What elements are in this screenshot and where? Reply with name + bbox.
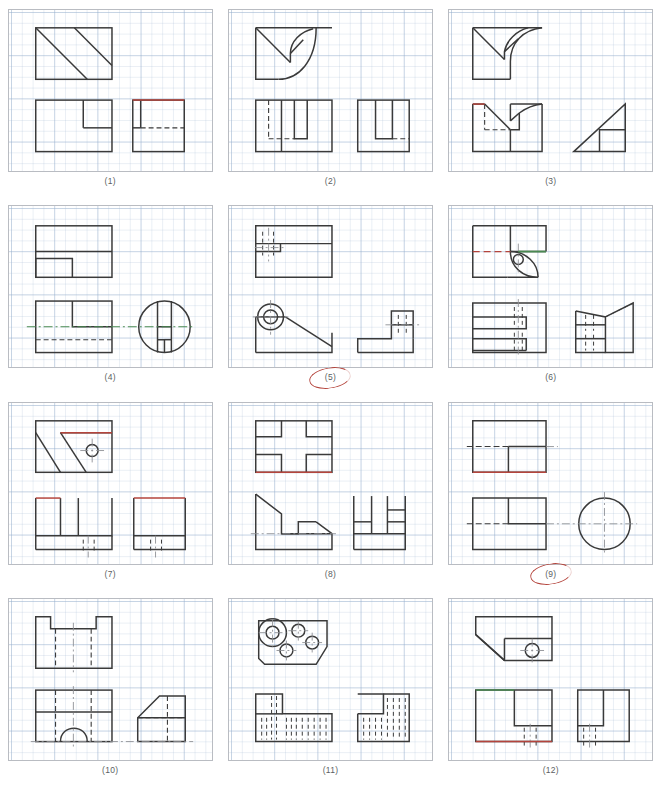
drawing-panel bbox=[228, 9, 433, 172]
panel-caption: (3) bbox=[545, 176, 556, 187]
panel-caption: (1) bbox=[105, 176, 116, 187]
drawing-panel bbox=[448, 598, 653, 761]
exercise-panel-12: (12) bbox=[441, 589, 661, 785]
exercise-panel-10: (10) bbox=[0, 589, 220, 785]
drawing-panel bbox=[228, 205, 433, 368]
panel-caption: (10) bbox=[102, 765, 118, 776]
panel-caption: (8) bbox=[325, 569, 336, 580]
orthographic-drawing bbox=[229, 599, 432, 760]
panel-number: (8) bbox=[325, 569, 336, 579]
drawing-panel bbox=[448, 402, 653, 565]
panel-caption: (12) bbox=[543, 765, 559, 776]
exercise-panel-5: (5) bbox=[220, 196, 440, 392]
exercise-panel-8: (8) bbox=[220, 393, 440, 589]
orthographic-drawing bbox=[449, 10, 652, 171]
drawing-panel bbox=[448, 9, 653, 172]
panel-caption: (4) bbox=[105, 372, 116, 383]
panel-number: (2) bbox=[325, 176, 336, 186]
orthographic-drawing bbox=[449, 206, 652, 367]
orthographic-drawing bbox=[229, 10, 432, 171]
panel-caption: (11) bbox=[323, 765, 339, 776]
exercise-panel-4: (4) bbox=[0, 196, 220, 392]
panel-caption: (7) bbox=[105, 569, 116, 580]
exercise-sheet: (1) bbox=[0, 0, 661, 785]
panel-number: (4) bbox=[105, 372, 116, 382]
panel-caption: (6) bbox=[545, 372, 556, 383]
orthographic-drawing bbox=[9, 10, 212, 171]
exercise-panel-7: (7) bbox=[0, 393, 220, 589]
drawing-panel bbox=[448, 205, 653, 368]
exercise-panel-11: (11) bbox=[220, 589, 440, 785]
panel-caption: (2) bbox=[325, 176, 336, 187]
panel-caption: (5) bbox=[325, 372, 336, 383]
orthographic-drawing bbox=[9, 599, 212, 760]
orthographic-drawing bbox=[449, 403, 652, 564]
exercise-panel-2: (2) bbox=[220, 0, 440, 196]
drawing-panel bbox=[8, 9, 213, 172]
orthographic-drawing bbox=[229, 206, 432, 367]
drawing-panel bbox=[8, 598, 213, 761]
panel-number: (1) bbox=[105, 176, 116, 186]
drawing-panel bbox=[228, 402, 433, 565]
drawing-panel bbox=[8, 205, 213, 368]
panel-number: (6) bbox=[545, 372, 556, 382]
panel-number: (9) bbox=[545, 569, 556, 579]
exercise-panel-9: (9) bbox=[441, 393, 661, 589]
panel-number: (10) bbox=[102, 765, 118, 775]
panel-number: (11) bbox=[323, 765, 339, 775]
panel-number: (12) bbox=[543, 765, 559, 775]
panel-number: (3) bbox=[545, 176, 556, 186]
orthographic-drawing bbox=[9, 206, 212, 367]
orthographic-drawing bbox=[9, 403, 212, 564]
orthographic-drawing bbox=[229, 403, 432, 564]
panel-number: (7) bbox=[105, 569, 116, 579]
panel-number: (5) bbox=[325, 372, 336, 382]
orthographic-drawing bbox=[449, 599, 652, 760]
panel-caption: (9) bbox=[545, 569, 556, 580]
exercise-panel-1: (1) bbox=[0, 0, 220, 196]
exercise-panel-6: (6) bbox=[441, 196, 661, 392]
drawing-panel bbox=[228, 598, 433, 761]
drawing-panel bbox=[8, 402, 213, 565]
exercise-panel-3: (3) bbox=[441, 0, 661, 196]
